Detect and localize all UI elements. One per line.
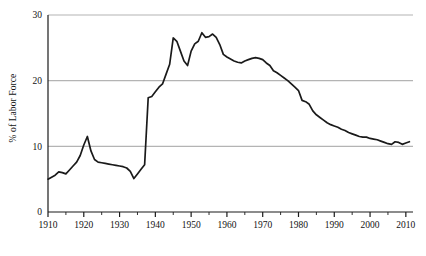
svg-text:1950: 1950 — [182, 220, 201, 230]
data-series-union-membership — [48, 33, 409, 179]
x-tick-marks — [48, 212, 406, 217]
svg-text:20: 20 — [33, 76, 43, 86]
svg-text:2000: 2000 — [361, 220, 380, 230]
svg-text:1960: 1960 — [217, 220, 236, 230]
svg-text:0: 0 — [37, 207, 42, 217]
svg-text:1930: 1930 — [110, 220, 129, 230]
x-tick-labels: 1910192019301940195019601970198019902000… — [39, 220, 416, 230]
svg-text:2010: 2010 — [396, 220, 415, 230]
svg-text:1970: 1970 — [253, 220, 272, 230]
svg-text:1940: 1940 — [146, 220, 165, 230]
svg-text:1910: 1910 — [39, 220, 58, 230]
svg-text:1980: 1980 — [289, 220, 308, 230]
svg-text:30: 30 — [33, 10, 43, 20]
y-tick-labels: 0102030 — [33, 10, 43, 217]
svg-text:10: 10 — [33, 142, 43, 152]
svg-text:1920: 1920 — [74, 220, 93, 230]
line-chart-plot: 0102030 19101920193019401950196019701980… — [0, 0, 426, 256]
chart-container: % of Labor Force 0102030 191019201930194… — [0, 0, 426, 256]
svg-text:1990: 1990 — [325, 220, 344, 230]
grid-lines — [48, 15, 413, 146]
